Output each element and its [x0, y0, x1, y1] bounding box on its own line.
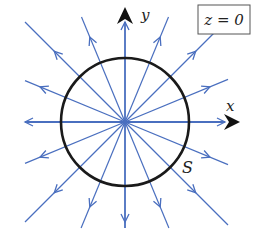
- field-line: [25, 122, 125, 222]
- origin-point: [122, 119, 127, 124]
- field-line: [25, 22, 125, 122]
- radial-field-diagram: x y S z = 0: [0, 0, 269, 243]
- plane-label: z = 0: [203, 11, 244, 29]
- y-axis-label: y: [140, 6, 150, 24]
- plane-label-box: z = 0: [198, 5, 250, 34]
- field-line: [125, 122, 228, 225]
- x-axis-label: x: [226, 97, 235, 115]
- surface-label: S: [182, 158, 193, 177]
